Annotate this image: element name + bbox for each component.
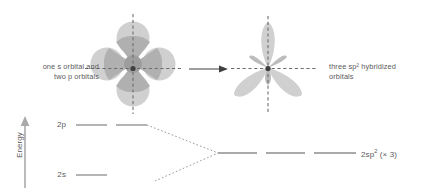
caption-left: one s orbital and two p orbitals: [6, 62, 99, 82]
energy-level-lines: [76, 125, 356, 175]
level-connectors: [147, 125, 218, 181]
right-orbital-group: [231, 16, 318, 113]
transform-arrow: [189, 66, 228, 73]
label-2sp2-suffix: (× 3): [378, 150, 398, 159]
connector-2p-to-2sp2: [147, 125, 218, 153]
left-nucleus: [130, 66, 135, 71]
right-nucleus: [265, 66, 270, 71]
label-2sp2-prefix: 2sp: [361, 150, 374, 159]
energy-level-label-2p: 2p: [44, 120, 66, 130]
diagram-svg: [0, 0, 427, 195]
left-orbital-group: [85, 14, 182, 114]
energy-level-label-2s: 2s: [44, 170, 66, 180]
connector-2s-to-2sp2: [155, 153, 218, 181]
energy-axis-label: Energy: [15, 119, 25, 171]
figure-canvas: one s orbital and two p orbitals three s…: [0, 0, 427, 195]
sp2-lobe-lower-left: [234, 68, 268, 97]
caption-right: three sp² hybridized orbitals: [329, 62, 425, 82]
energy-level-label-2sp2: 2sp2 (× 3): [361, 150, 425, 160]
sp2-lobe-lower-right: [268, 68, 302, 97]
